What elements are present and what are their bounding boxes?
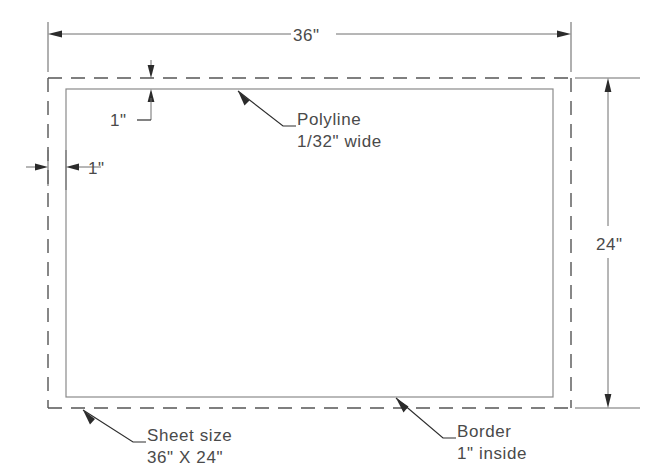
note-polyline-line2: 1/32" wide [297, 132, 382, 151]
dimension-label-left-inset: 1" [88, 159, 105, 178]
note-polyline: Polyline 1/32" wide [238, 91, 382, 151]
dimension-label-height: 24" [596, 235, 623, 254]
drawing-canvas: 36" 24" 1" [0, 0, 651, 474]
arrowhead-right-top [557, 31, 571, 38]
arrowhead-top-right [605, 78, 612, 92]
dimension-left-inset-1in: 1" [26, 150, 105, 190]
dimension-width-36: 36" [48, 22, 571, 72]
note-sheet-size: Sheet size 36" X 24" [83, 410, 232, 467]
note-border-line2: 1" inside [457, 444, 527, 463]
leader-line-border [396, 398, 456, 438]
technical-drawing: 36" 24" 1" [0, 0, 651, 474]
note-sheet-size-line1: Sheet size [147, 426, 232, 445]
leader-line-polyline [238, 91, 296, 126]
note-border-line1: Border [457, 422, 512, 441]
arrowhead-sheet-size-leader [83, 410, 95, 425]
note-polyline-line1: Polyline [297, 110, 361, 129]
note-sheet-size-line2: 36" X 24" [147, 448, 223, 467]
leader-line-sheet-size [83, 410, 146, 442]
note-border: Border 1" inside [396, 398, 527, 463]
arrowhead-border-leader [396, 398, 409, 413]
arrowhead-top-inset-down [148, 65, 155, 78]
arrowhead-left-inset-inner [66, 164, 79, 171]
dimension-top-inset-1in: 1" [110, 60, 154, 130]
arrowhead-left-top [48, 31, 62, 38]
dimension-label-top-inset: 1" [110, 111, 127, 130]
arrowhead-bottom-right [605, 394, 612, 408]
arrowhead-left-inset-outer [35, 164, 48, 171]
dimension-height-24: 24" [575, 78, 640, 408]
dimension-label-width: 36" [293, 26, 320, 45]
